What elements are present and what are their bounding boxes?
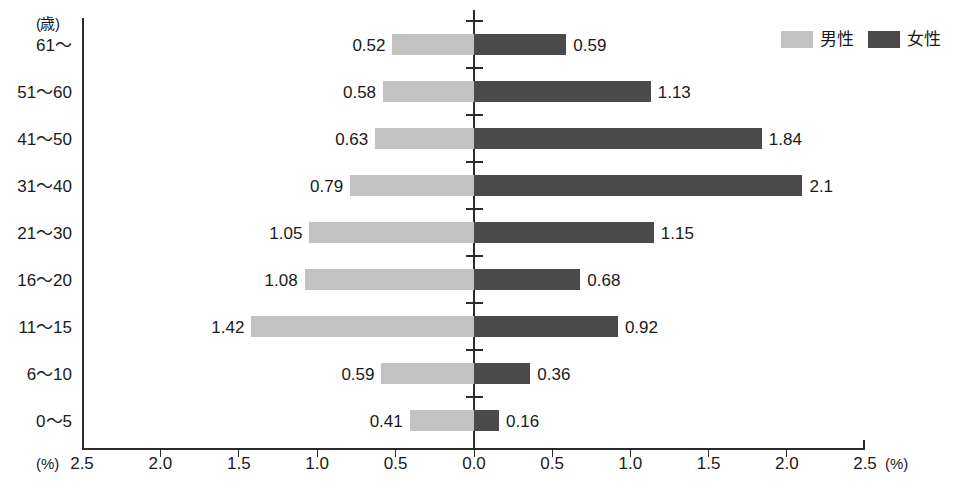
bar-row: 0.520.59 (82, 34, 865, 55)
x-axis-tick-label: 2.5 (70, 455, 94, 472)
y-axis-category-label: 21～30 (17, 224, 72, 241)
bar-row: 1.051.15 (82, 222, 865, 243)
value-label-female: 1.15 (661, 224, 694, 241)
y-axis-category-label: 31～40 (17, 177, 72, 194)
bar-female (474, 269, 580, 290)
legend-item-female: 女性 (868, 31, 941, 48)
zero-axis-tick (466, 396, 483, 398)
zero-axis-tick (466, 114, 483, 116)
value-label-male: 1.08 (265, 271, 298, 288)
value-label-male: 1.05 (269, 224, 302, 241)
bar-male (305, 269, 474, 290)
bar-female (474, 222, 654, 243)
y-axis-category-label: 61～ (36, 36, 72, 53)
bar-row: 1.420.92 (82, 316, 865, 337)
bar-male (410, 410, 474, 431)
value-label-female: 1.84 (769, 130, 802, 147)
bar-male (309, 222, 474, 243)
y-axis-category-label: 0～5 (36, 412, 72, 429)
legend-label-female: 女性 (907, 31, 941, 48)
zero-axis-tick (466, 349, 483, 351)
y-axis-category-label: 6～10 (27, 365, 72, 382)
x-axis-tick-label: 1.5 (227, 455, 251, 472)
value-label-male: 0.59 (341, 365, 374, 382)
bar-row: 0.631.84 (82, 128, 865, 149)
bar-row: 1.080.68 (82, 269, 865, 290)
zero-axis-tick (466, 161, 483, 163)
x-axis-tick-label: 0.0 (462, 455, 486, 472)
x-axis-tick-label: 0.5 (540, 455, 564, 472)
bar-female (474, 175, 802, 196)
value-label-male: 0.79 (310, 177, 343, 194)
value-label-female: 0.36 (537, 365, 570, 382)
bar-male (375, 128, 474, 149)
diverging-bar-chart: (歳) 男性 女性 61～51～6041～5031～4021～3016～2011… (0, 0, 953, 503)
value-label-male: 1.42 (211, 318, 244, 335)
x-axis-unit-left: (%) (36, 455, 59, 472)
bar-row: 0.410.16 (82, 410, 865, 431)
value-label-male: 0.63 (335, 130, 368, 147)
value-label-male: 0.41 (370, 412, 403, 429)
value-label-male: 0.52 (352, 36, 385, 53)
x-axis-tick-label: 2.0 (775, 455, 799, 472)
bar-male (392, 34, 474, 55)
bar-female (474, 128, 762, 149)
x-axis-tick-label: 2.5 (853, 455, 877, 472)
value-label-female: 0.59 (573, 36, 606, 53)
bar-male (381, 363, 474, 384)
bar-female (474, 316, 618, 337)
x-axis-right-cap (863, 440, 865, 450)
value-label-female: 1.13 (658, 83, 691, 100)
bar-female (474, 363, 530, 384)
value-label-female: 0.16 (506, 412, 539, 429)
bar-female (474, 410, 499, 431)
bar-male (251, 316, 474, 337)
x-axis-tick-label: 1.5 (697, 455, 721, 472)
bar-female (474, 81, 651, 102)
bar-male (383, 81, 474, 102)
legend-swatch-female (868, 31, 900, 48)
bar-row: 0.590.36 (82, 363, 865, 384)
value-label-female: 0.68 (587, 271, 620, 288)
y-axis-category-label: 11～15 (18, 318, 72, 335)
zero-axis-tick (466, 255, 483, 257)
y-axis-category-label: 16～20 (17, 271, 72, 288)
zero-axis-tick (466, 67, 483, 69)
y-axis-category-label: 41～50 (17, 130, 72, 147)
bar-row: 0.581.13 (82, 81, 865, 102)
y-axis-category-label: 51～60 (17, 83, 72, 100)
value-label-female: 2.1 (809, 177, 833, 194)
bar-male (350, 175, 474, 196)
value-label-male: 0.58 (343, 83, 376, 100)
plot-area: 0.520.590.581.130.631.840.792.11.051.151… (82, 18, 865, 448)
x-axis-unit-right: (%) (885, 455, 908, 472)
zero-axis-tick (466, 302, 483, 304)
x-axis-tick-label: 1.0 (305, 455, 329, 472)
zero-axis-tick (466, 20, 483, 22)
bar-female (474, 34, 566, 55)
y-axis-category-labels: 61～51～6041～5031～4021～3016～2011～156～100～5 (0, 0, 72, 503)
x-axis-tick-label: 1.0 (619, 455, 643, 472)
x-axis-tick-label: 0.5 (384, 455, 408, 472)
zero-axis-tick (466, 208, 483, 210)
x-axis-tick-label: 2.0 (149, 455, 173, 472)
value-label-female: 0.92 (625, 318, 658, 335)
bar-row: 0.792.1 (82, 175, 865, 196)
